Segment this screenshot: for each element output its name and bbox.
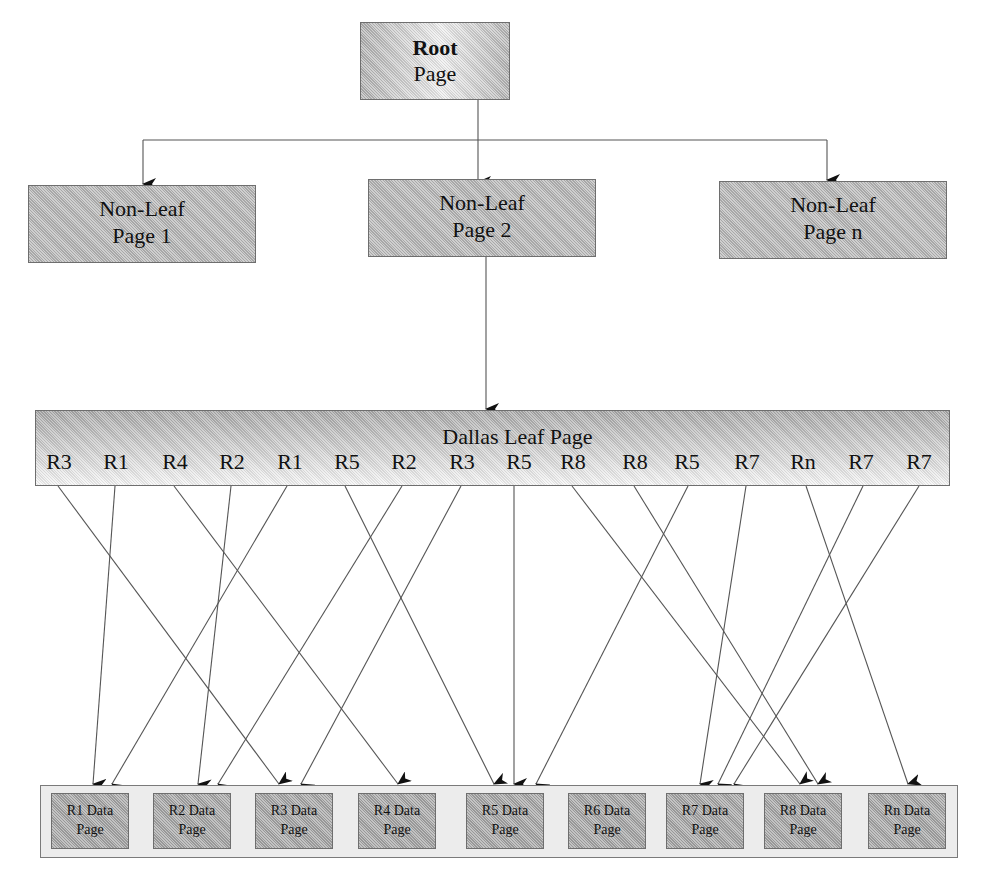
r6-data-page: R6 Data Page <box>568 793 646 849</box>
rn-data-page: Rn Data Page <box>868 793 946 849</box>
data-page-label-line2: Page <box>569 820 645 839</box>
data-page-label-line2: Page <box>154 820 230 839</box>
leaf-page-entries: R3 R1 R4 R2 R1 R5 R2 R3 R5 R8 R8 R5 R7 R… <box>36 449 949 475</box>
data-pages-container: R1 Data Page R2 Data Page R3 Data Page R… <box>40 785 958 858</box>
non-leaf-page-label-line1: Non-Leaf <box>369 189 595 216</box>
leaf-entry: R3 <box>449 449 475 475</box>
dallas-leaf-page: Dallas Leaf Page R3 R1 R4 R2 R1 R5 R2 R3… <box>35 410 950 486</box>
leaf-entry: R8 <box>622 449 648 475</box>
leaf-entry: R7 <box>734 449 760 475</box>
data-page-label-line1: R8 Data <box>765 801 841 820</box>
root-page-label-line2: Page <box>361 61 509 87</box>
data-page-label-line2: Page <box>359 820 435 839</box>
data-page-label-line1: R2 Data <box>154 801 230 820</box>
leaf-entry: R2 <box>391 449 417 475</box>
data-page-label-line1: R7 Data <box>667 801 743 820</box>
leaf-entry: R7 <box>848 449 874 475</box>
data-page-label-line2: Page <box>52 820 128 839</box>
r4-data-page: R4 Data Page <box>358 793 436 849</box>
non-leaf-page-1: Non-Leaf Page 1 <box>28 185 256 263</box>
leaf-entry: R5 <box>334 449 360 475</box>
leaf-entry: R8 <box>560 449 586 475</box>
data-page-label-line1: R4 Data <box>359 801 435 820</box>
non-leaf-page-n: Non-Leaf Page n <box>719 181 947 259</box>
data-page-label-line2: Page <box>256 820 332 839</box>
data-page-label-line2: Page <box>765 820 841 839</box>
r7-data-page: R7 Data Page <box>666 793 744 849</box>
leaf-entry: R1 <box>277 449 303 475</box>
leaf-entry: R4 <box>162 449 188 475</box>
non-leaf-page-label-line1: Non-Leaf <box>29 195 255 222</box>
leaf-entry: R5 <box>506 449 532 475</box>
leaf-entry: R1 <box>103 449 129 475</box>
r3-data-page: R3 Data Page <box>255 793 333 849</box>
leaf-entry: R2 <box>219 449 245 475</box>
leaf-entry: R3 <box>46 449 72 475</box>
non-leaf-page-label-line2: Page n <box>720 218 946 245</box>
leaf-entry: R7 <box>906 449 932 475</box>
data-page-label-line2: Page <box>667 820 743 839</box>
r8-data-page: R8 Data Page <box>764 793 842 849</box>
leaf-entry: Rn <box>790 449 816 475</box>
non-leaf-page-label-line1: Non-Leaf <box>720 191 946 218</box>
non-leaf-page-label-line2: Page 1 <box>29 222 255 249</box>
non-leaf-page-label-line2: Page 2 <box>369 216 595 243</box>
data-page-label-line1: R5 Data <box>467 801 543 820</box>
root-page: Root Page <box>360 22 510 100</box>
data-page-label-line2: Page <box>869 820 945 839</box>
root-page-label-line1: Root <box>361 35 509 61</box>
data-page-label-line1: R6 Data <box>569 801 645 820</box>
leaf-page-title: Dallas Leaf Page <box>36 424 949 450</box>
data-page-label-line1: R3 Data <box>256 801 332 820</box>
r5-data-page: R5 Data Page <box>466 793 544 849</box>
r1-data-page: R1 Data Page <box>51 793 129 849</box>
data-page-label-line2: Page <box>467 820 543 839</box>
r2-data-page: R2 Data Page <box>153 793 231 849</box>
data-page-label-line1: Rn Data <box>869 801 945 820</box>
non-leaf-page-2: Non-Leaf Page 2 <box>368 179 596 257</box>
leaf-entry: R5 <box>674 449 700 475</box>
data-page-label-line1: R1 Data <box>52 801 128 820</box>
